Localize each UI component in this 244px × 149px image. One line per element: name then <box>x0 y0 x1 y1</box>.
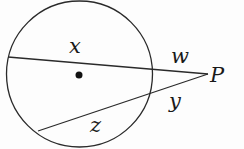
center-dot <box>76 72 83 79</box>
label-x: x <box>69 34 81 58</box>
label-z: z <box>89 113 102 137</box>
secant-diagram: x w P y z <box>0 0 244 149</box>
label-y: y <box>168 89 182 113</box>
label-w: w <box>171 44 189 68</box>
label-point-P: P <box>209 63 225 87</box>
diagram-canvas: x w P y z <box>0 0 244 149</box>
lower-secant-line <box>38 74 208 131</box>
